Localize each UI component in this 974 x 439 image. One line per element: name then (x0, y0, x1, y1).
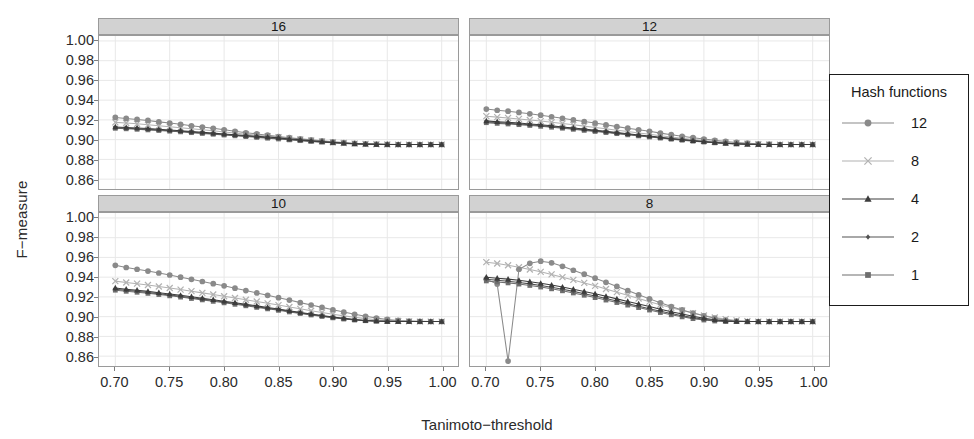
chart-root: F−measure Tanimoto−threshold 1.000.980.9… (0, 0, 974, 439)
y-axis-label: F−measure (8, 0, 34, 439)
x-tick-label: 0.85 (635, 374, 663, 390)
data-point-circle (560, 115, 566, 121)
x-tick-label: 0.90 (319, 374, 347, 390)
x-tick-label: 0.80 (581, 374, 609, 390)
legend-title: Hash functions (830, 84, 968, 100)
facet-strip-label: 8 (469, 195, 830, 212)
x-tick-mark (169, 367, 170, 371)
data-point-circle (123, 265, 129, 271)
legend-key-triangle-icon (839, 189, 897, 209)
data-point-circle (527, 111, 533, 117)
x-tick-mark (759, 367, 760, 371)
y-tick-mark (94, 40, 98, 41)
data-point-circle (625, 125, 631, 131)
x-tick-label: 0.80 (210, 374, 238, 390)
x-tick-label: 0.70 (100, 374, 128, 390)
data-point-circle (123, 116, 129, 122)
y-tick-label: 1.00 (66, 32, 94, 48)
data-point-circle (494, 107, 500, 113)
legend-key-cross-icon (839, 151, 897, 171)
x-tick-label: 1.00 (428, 374, 456, 390)
y-tick-mark (94, 180, 98, 181)
legend-key-diamond-icon (839, 227, 897, 247)
data-point-circle (516, 110, 522, 116)
x-tick-mark (595, 367, 596, 371)
data-point-circle (352, 311, 358, 317)
data-point-circle (210, 281, 216, 287)
legend-label: 1 (911, 267, 919, 283)
data-point-circle (243, 288, 249, 294)
x-tick-mark (814, 367, 815, 371)
x-tick-mark (540, 367, 541, 371)
y-tick-label: 0.86 (66, 349, 94, 365)
x-tick-label: 0.85 (264, 374, 292, 390)
x-axis-label: Tanimoto−threshold (0, 416, 974, 433)
y-tick-label: 0.90 (66, 309, 94, 325)
plot-area (98, 35, 459, 190)
data-point-circle (199, 124, 205, 130)
data-point-circle (592, 275, 598, 281)
x-tick-label: 0.90 (690, 374, 718, 390)
y-tick-mark (94, 277, 98, 278)
x-tick-mark (443, 367, 444, 371)
data-point-circle (636, 292, 642, 298)
y-axis-ticks-top: 1.000.980.960.940.920.900.880.86 (36, 35, 94, 190)
data-point-triangle (112, 285, 118, 290)
y-tick-label: 0.92 (66, 112, 94, 128)
y-tick-label: 0.94 (66, 269, 94, 285)
facet-panel-12: 12 (469, 18, 830, 190)
data-point-circle (581, 271, 587, 277)
data-point-circle (276, 295, 282, 301)
y-tick-mark (94, 337, 98, 338)
y-tick-mark (94, 80, 98, 81)
data-point-circle (865, 120, 872, 127)
data-point-circle (341, 309, 347, 315)
y-tick-mark (94, 160, 98, 161)
data-point-cross (603, 286, 609, 292)
facet-panel-10: 10 (98, 195, 459, 367)
data-point-circle (189, 123, 195, 129)
y-tick-label: 0.98 (66, 52, 94, 68)
x-tick-label: 0.95 (745, 374, 773, 390)
legend-label: 2 (911, 229, 919, 245)
x-tick-mark (224, 367, 225, 371)
facet-panel-16: 16 (98, 18, 459, 190)
data-point-circle (297, 300, 303, 306)
data-point-circle (232, 285, 238, 291)
y-tick-label: 0.90 (66, 132, 94, 148)
x-tick-label: 1.00 (799, 374, 827, 390)
x-tick-label: 0.70 (471, 374, 499, 390)
facet-strip-label: 10 (98, 195, 459, 212)
data-point-circle (560, 263, 566, 269)
data-point-circle (167, 272, 173, 278)
legend-item-4[interactable]: 4 (830, 180, 968, 218)
data-point-circle (614, 124, 620, 130)
data-point-circle (581, 119, 587, 125)
x-tick-mark (388, 367, 389, 371)
data-point-circle (145, 268, 151, 274)
legend-label: 4 (911, 191, 919, 207)
x-axis-ticks-left: 0.700.750.800.850.900.951.00 (98, 374, 459, 394)
data-point-circle (570, 267, 576, 273)
data-point-circle (287, 297, 293, 303)
legend-items: 128421 (830, 104, 968, 294)
data-point-diamond (866, 234, 870, 239)
y-tick-label: 0.92 (66, 289, 94, 305)
data-point-circle (145, 118, 151, 124)
legend-key-circle-icon (839, 113, 897, 133)
legend-item-1[interactable]: 1 (830, 256, 968, 294)
legend-key-square-icon (839, 265, 897, 285)
data-point-circle (178, 274, 184, 280)
y-tick-mark (94, 120, 98, 121)
legend-item-2[interactable]: 2 (830, 218, 968, 256)
data-point-circle (134, 117, 140, 123)
y-tick-mark (94, 217, 98, 218)
data-point-circle (538, 112, 544, 118)
legend-item-12[interactable]: 12 (830, 104, 968, 142)
legend-item-8[interactable]: 8 (830, 142, 968, 180)
data-point-circle (254, 290, 260, 296)
data-point-circle (505, 108, 511, 114)
data-point-circle (592, 120, 598, 126)
data-point-circle (538, 258, 544, 264)
data-point-circle (221, 283, 227, 289)
